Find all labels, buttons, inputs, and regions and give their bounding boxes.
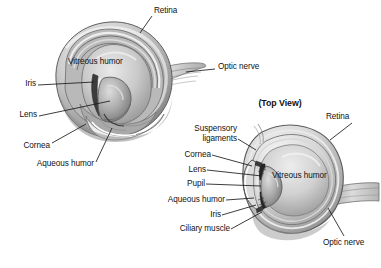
label-optic-nerve-left: Optic nerve: [218, 62, 259, 72]
suspensory-line1: Suspensory: [194, 124, 237, 133]
label-cornea-left: Cornea: [0, 141, 50, 151]
label-iris-right: Iris: [175, 210, 221, 220]
label-vitreous-humor-left: Vitreous humor: [68, 57, 123, 67]
eye-anatomy-figure: Retina Optic nerve Vitreous humor Iris L…: [0, 0, 381, 268]
label-iris-left: Iris: [0, 79, 36, 89]
label-cornea-right: Cornea: [175, 150, 211, 160]
label-pupil-right: Pupil: [175, 179, 205, 189]
label-ciliary-muscle-right: Ciliary muscle: [160, 224, 230, 234]
label-optic-nerve-right: Optic nerve: [323, 238, 364, 248]
label-lens-left: Lens: [0, 110, 37, 120]
label-lens-right: Lens: [175, 165, 206, 175]
suspensory-line2: ligaments: [202, 134, 237, 143]
label-aqueous-humor-right: Aqueous humor: [150, 195, 225, 205]
label-aqueous-humor-left: Aqueous humor: [0, 159, 94, 169]
label-vitreous-humor-right: Vitreous humor: [272, 171, 327, 181]
leader-retina-left: [140, 16, 152, 33]
leader-optic-nerve-right: [328, 208, 344, 236]
leader-cornea-left: [52, 124, 86, 143]
top-view-title: (Top View): [245, 99, 315, 109]
right-eye-illustration: [243, 124, 379, 240]
label-retina-right: Retina: [326, 112, 349, 122]
leader-retina-right: [330, 123, 352, 140]
label-retina-left: Retina: [154, 6, 177, 16]
label-suspensory-ligaments-right: Suspensory ligaments: [180, 124, 237, 144]
